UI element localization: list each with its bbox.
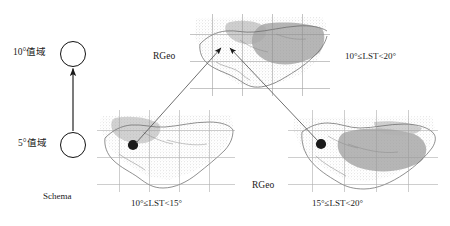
connector-overlay bbox=[0, 0, 450, 226]
connector-lower-left-to-merged bbox=[136, 48, 221, 143]
connector-lower-right-to-merged bbox=[230, 48, 318, 141]
map-lower-left-dot bbox=[128, 140, 138, 150]
figure-canvas: 10°值域 5°值域 Schema bbox=[0, 0, 450, 226]
